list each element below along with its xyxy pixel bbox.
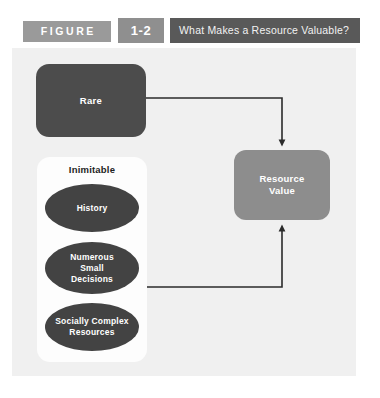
resource-value-box: Resource Value [234,150,330,220]
factor-history-label: History [73,203,112,214]
inimitable-card-label: Inimitable [37,165,147,175]
factor-socially-complex-resources-ellipse: Socially Complex Resources [45,303,139,351]
inimitable-card: Inimitable History Numerous Small Decisi… [37,157,147,362]
factor-numerous-small-decisions-label: Numerous Small Decisions [66,252,118,285]
connector-rare-to-resource [146,98,282,143]
factor-line-1: Socially Complex [55,316,129,326]
factor-line-2: Small [80,263,104,273]
resource-value-line-2: Value [269,185,295,196]
factor-socially-complex-resources-label: Socially Complex Resources [51,316,133,338]
connector-inimitable-to-resource [147,228,282,287]
rare-box-label: Rare [80,96,102,106]
factor-line-3: Decisions [71,274,113,284]
resource-value-line-1: Resource [260,173,305,184]
factor-line-1: Numerous [70,252,114,262]
factor-numerous-small-decisions-ellipse: Numerous Small Decisions [45,242,139,294]
resource-value-label: Resource Value [260,173,305,197]
factor-history-ellipse: History [45,184,139,232]
rare-box: Rare [36,64,146,137]
factor-line-2: Resources [69,327,114,337]
figure-page: FIGURE 1-2 What Makes a Resource Valuabl… [0,0,380,398]
